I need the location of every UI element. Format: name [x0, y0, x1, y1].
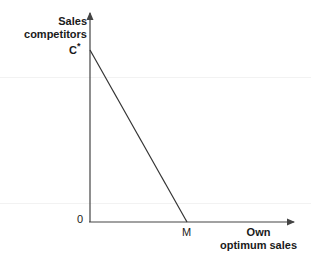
x-axis-title-line-1: Own [206, 226, 311, 239]
y-axis-title-line-1: Sales [0, 15, 87, 28]
y-intercept-superscript: * [77, 41, 81, 51]
y-axis-title-line-2: competitors [0, 28, 87, 41]
chart-figure: Sales competitors Own optimum sales C* 0… [0, 0, 311, 264]
x-axis-title: Own optimum sales [206, 226, 311, 252]
y-axis-title: Sales competitors [0, 15, 87, 41]
y-intercept-label-text: C [69, 44, 77, 56]
origin-label: 0 [77, 213, 83, 226]
y-intercept-label: C* [69, 44, 80, 57]
reaction-curve-line [90, 50, 187, 222]
x-intercept-label: M [182, 226, 191, 239]
x-axis-title-line-2: optimum sales [206, 239, 311, 252]
